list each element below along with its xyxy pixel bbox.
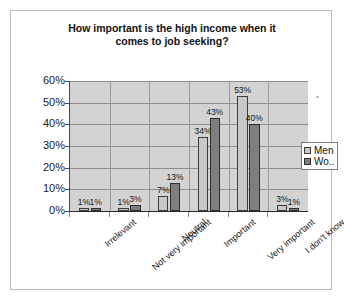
bar-value-label: 43% [202, 107, 228, 117]
y-axis-tick-label: 30% [31, 139, 65, 151]
x-axis-tick-mark [267, 212, 268, 217]
x-axis-tick-label: Irrelevant [102, 217, 137, 249]
bar-value-label: 1% [281, 197, 307, 207]
bar-women [130, 205, 140, 212]
x-axis-tick-mark [228, 212, 229, 217]
bar-men [79, 208, 89, 211]
category-separator [189, 81, 190, 211]
legend-label-men: Men [314, 145, 333, 156]
x-axis-tick-mark [69, 212, 70, 217]
chart-card: How important is the high income when it… [10, 10, 332, 290]
y-axis-tick-label: 40% [31, 117, 65, 129]
category-separator [229, 81, 230, 211]
plot-area: 1%1%1%3%7%13%34%43%53%40%3%1% [69, 81, 308, 212]
chart-title-line-2: comes to job seeking? [115, 35, 228, 47]
y-axis-tick-label: 60% [31, 74, 65, 86]
bar-women [170, 183, 180, 211]
bar-women [289, 208, 299, 211]
bar-value-label: 53% [230, 85, 256, 95]
legend-item-men: Men [304, 145, 334, 156]
chart-title: How important is the high income when it… [35, 22, 309, 48]
bar-men [158, 196, 168, 211]
bar-men [118, 208, 128, 211]
bar-women [249, 124, 259, 211]
bar-value-label: 1% [83, 197, 109, 207]
chart-title-line-1: How important is the high income when it [68, 22, 276, 34]
legend-item-women: Wo.. [304, 156, 334, 167]
chart-legend: Men Wo.. [301, 142, 338, 170]
legend-swatch-women-icon [304, 158, 311, 165]
category-separator [268, 81, 269, 211]
y-axis-tick-label: 10% [31, 182, 65, 194]
y-axis-tick-label: 20% [31, 161, 65, 173]
legend-label-women: Wo.. [314, 156, 334, 167]
bar-women [91, 208, 101, 211]
x-axis-tick-mark [109, 212, 110, 217]
legend-swatch-men-icon [304, 147, 311, 154]
bar-women [210, 118, 220, 211]
y-axis-tick-label: 0% [31, 204, 65, 216]
x-axis-tick-label: Important [221, 217, 257, 249]
bar-men [198, 137, 208, 211]
x-axis-tick-mark [188, 212, 189, 217]
bar-value-label: 3% [122, 194, 148, 204]
artifact-speck [316, 96, 319, 98]
bar-value-label: 40% [241, 113, 267, 123]
y-axis-tick-label: 50% [31, 96, 65, 108]
x-axis-tick-mark [148, 212, 149, 217]
bar-value-label: 13% [162, 172, 188, 182]
category-separator [110, 81, 111, 211]
